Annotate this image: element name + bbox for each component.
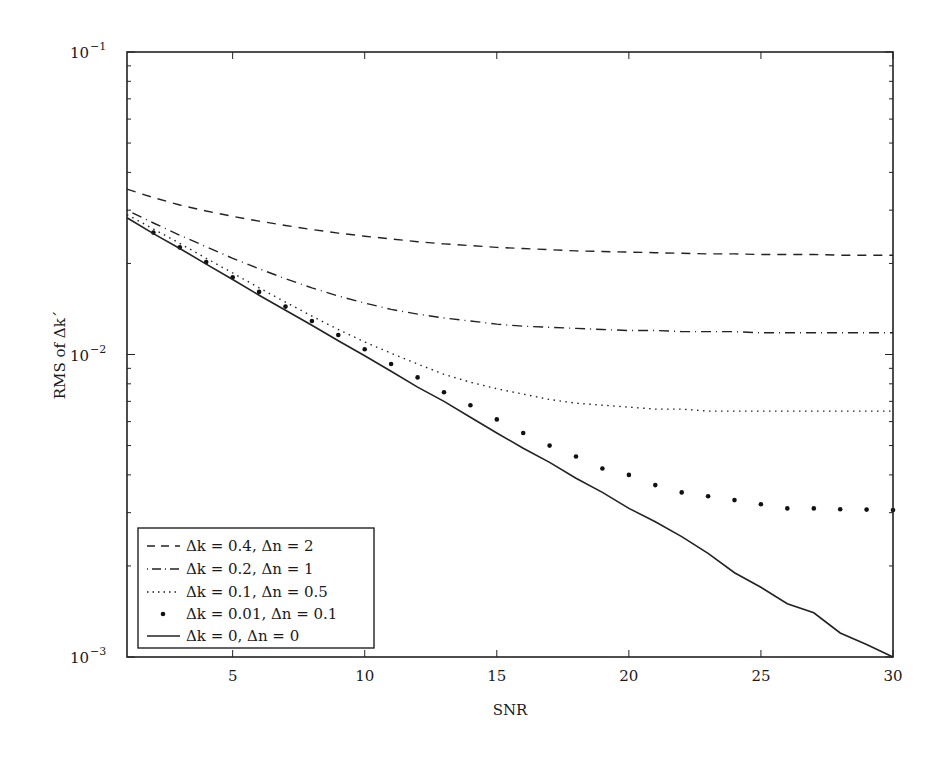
data-point-marker bbox=[468, 403, 473, 408]
data-point-marker bbox=[838, 507, 843, 512]
y-axis-label: RMS of Δk´ bbox=[51, 311, 69, 399]
data-point-marker bbox=[600, 466, 605, 471]
x-tick-label: 10 bbox=[355, 667, 374, 685]
chart: 51015202530 10−310−210−1 SNR RMS of Δk´ … bbox=[0, 0, 949, 759]
legend: Δk = 0.4, Δn = 2 Δk = 0.2, Δn = 1 Δk = 0… bbox=[138, 528, 374, 648]
data-point-marker bbox=[706, 494, 711, 499]
data-point-marker bbox=[283, 304, 288, 309]
series-line-dashdot bbox=[127, 210, 893, 333]
data-point-marker bbox=[812, 506, 817, 511]
data-point-marker bbox=[759, 502, 764, 507]
legend-label: Δk = 0.4, Δn = 2 bbox=[186, 537, 314, 555]
data-point-marker bbox=[336, 333, 341, 338]
y-tick-exponent: −3 bbox=[90, 645, 106, 658]
legend-swatch-marker bbox=[161, 612, 166, 617]
data-point-marker bbox=[679, 490, 684, 495]
data-point-marker bbox=[389, 362, 394, 367]
data-point-marker bbox=[415, 375, 420, 380]
data-point-marker bbox=[864, 507, 869, 512]
data-point-marker bbox=[362, 347, 367, 352]
x-axis-label: SNR bbox=[493, 701, 528, 719]
data-point-marker bbox=[785, 506, 790, 511]
x-tick-label: 5 bbox=[228, 667, 238, 685]
y-tick-label: 10 bbox=[70, 347, 89, 365]
data-point-marker bbox=[627, 473, 632, 478]
series-line-dashed bbox=[127, 189, 893, 255]
legend-label: Δk = 0.1, Δn = 0.5 bbox=[186, 583, 328, 601]
y-tick-exponent: −1 bbox=[90, 40, 106, 53]
data-point-marker bbox=[732, 498, 737, 503]
y-tick-label: 10 bbox=[70, 44, 89, 62]
legend-label: Δk = 0, Δn = 0 bbox=[186, 627, 299, 645]
series-line-dotted bbox=[127, 215, 893, 412]
data-point-marker bbox=[574, 454, 579, 459]
data-point-marker bbox=[310, 319, 315, 324]
data-point-marker bbox=[495, 417, 500, 422]
x-tick-label: 20 bbox=[619, 667, 638, 685]
series-markers bbox=[151, 230, 895, 512]
y-tick-label: 10 bbox=[70, 649, 89, 667]
x-tick-label: 15 bbox=[487, 667, 506, 685]
data-point-marker bbox=[521, 431, 526, 436]
data-point-marker bbox=[547, 443, 552, 448]
legend-label: Δk = 0.2, Δn = 1 bbox=[186, 560, 314, 578]
y-tick-exponent: −2 bbox=[90, 343, 106, 356]
x-tick-label: 30 bbox=[883, 667, 902, 685]
legend-item-markers: Δk = 0.01, Δn = 0.1 bbox=[161, 605, 338, 623]
data-point-marker bbox=[653, 483, 658, 488]
legend-label: Δk = 0.01, Δn = 0.1 bbox=[186, 605, 337, 623]
data-point-marker bbox=[442, 390, 447, 395]
x-tick-label: 25 bbox=[751, 667, 770, 685]
